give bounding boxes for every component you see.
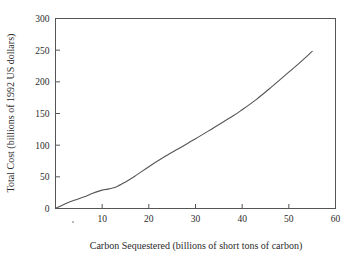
y-tick-label-250: 250 xyxy=(35,46,50,56)
y-tick-label-50: 50 xyxy=(40,172,50,182)
y-tick-label-200: 200 xyxy=(35,77,50,87)
y-tick-label-150: 150 xyxy=(35,109,50,119)
x-tick-label-10: 10 xyxy=(97,214,107,224)
x-axis-title: Carbon Sequestered (billions of short to… xyxy=(90,240,302,252)
x-tick-label-40: 40 xyxy=(237,214,247,224)
y-tick-label-100: 100 xyxy=(35,141,50,151)
cost-curve-chart: 102030405060 050100150200250300 Carbon S… xyxy=(0,0,357,261)
chart-figure: 102030405060 050100150200250300 Carbon S… xyxy=(0,0,357,261)
chart-background xyxy=(0,0,357,261)
x-tick-label-50: 50 xyxy=(284,214,294,224)
y-tick-label-0: 0 xyxy=(45,204,50,214)
x-tick-label-30: 30 xyxy=(191,214,201,224)
x-tick-label-20: 20 xyxy=(144,214,154,224)
y-tick-label-300: 300 xyxy=(35,14,50,24)
scan-speck xyxy=(72,221,74,223)
x-tick-label-60: 60 xyxy=(331,214,341,224)
y-axis-title: Total Cost (billions of 1992 US dollars) xyxy=(5,34,17,193)
